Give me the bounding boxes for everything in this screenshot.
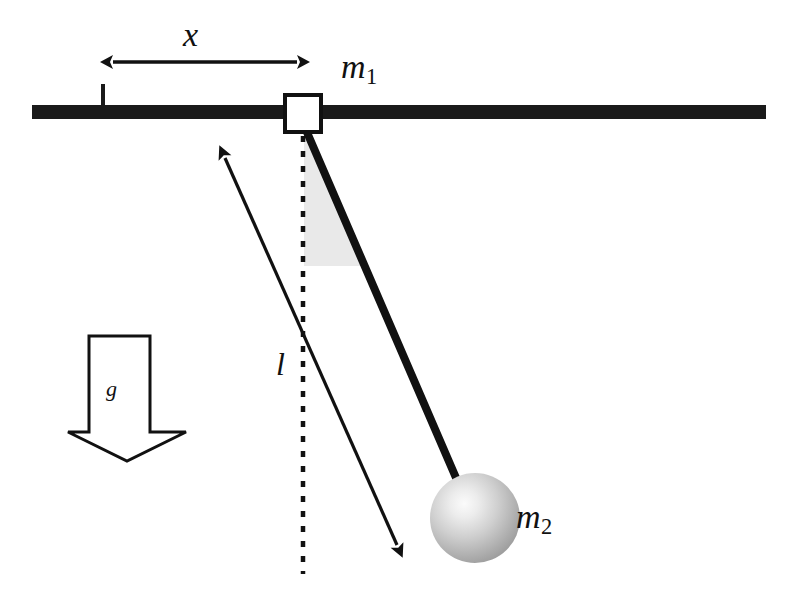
cart-mass-label: m1 xyxy=(341,50,377,89)
gravity-block-arrow xyxy=(68,336,186,461)
physics-diagram: x m1 m2 l g xyxy=(0,0,808,608)
bob-mass-subscript: 2 xyxy=(541,514,553,539)
displacement-label: x xyxy=(183,18,198,52)
diagram-canvas xyxy=(0,0,808,608)
horizontal-rail xyxy=(32,105,766,119)
bob-mass-base: m xyxy=(516,498,541,535)
pendulum-rod xyxy=(306,130,463,494)
origin-tick-mark xyxy=(101,84,105,107)
gravity-label: g xyxy=(106,378,117,400)
pendulum-bob xyxy=(430,473,520,563)
cart-mass-subscript: 1 xyxy=(366,64,378,89)
cart-block xyxy=(285,95,321,132)
rod-length-label: l xyxy=(276,348,285,380)
cart-mass-base: m xyxy=(341,48,366,85)
bob-mass-label: m2 xyxy=(516,500,552,539)
